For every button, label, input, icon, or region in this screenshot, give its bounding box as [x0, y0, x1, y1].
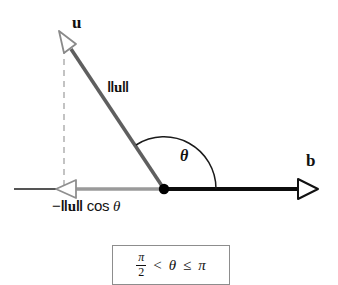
- norm-bar-right: ‖: [122, 78, 129, 95]
- angle-condition-box: π 2 < θ ≤ π: [112, 245, 230, 285]
- projection-u-letter: u: [68, 198, 76, 214]
- vector-b-arrowhead-icon: [298, 179, 318, 199]
- projection-arrowhead-icon: [56, 180, 76, 198]
- projection-length-label: −‖u‖ cos θ: [52, 198, 120, 214]
- angle-theta-label: θ: [180, 148, 188, 164]
- angle-condition-expression: π 2 < θ ≤ π: [136, 252, 206, 278]
- projection-bar-right: ‖: [76, 197, 83, 214]
- condition-pi: π: [198, 257, 206, 274]
- origin-dot: [159, 184, 169, 194]
- pi-over-two-fraction: π 2: [136, 252, 146, 278]
- less-than-or-equal-operator: ≤: [183, 257, 191, 274]
- projection-cos-text: cos: [83, 197, 113, 214]
- fraction-denominator: 2: [136, 267, 146, 278]
- projection-bar-left: ‖: [60, 197, 67, 214]
- vector-b-label: b: [306, 152, 315, 169]
- vector-u-label: u: [72, 14, 81, 31]
- projection-theta: θ: [113, 198, 120, 214]
- less-than-operator: <: [153, 257, 161, 274]
- fraction-numerator: π: [136, 252, 146, 263]
- vector-u-line: [71, 49, 164, 189]
- magnitude-u-label: ‖u‖: [107, 79, 129, 95]
- condition-theta: θ: [169, 257, 176, 274]
- norm-u-letter: u: [114, 79, 122, 95]
- norm-bar-left: ‖: [107, 78, 114, 95]
